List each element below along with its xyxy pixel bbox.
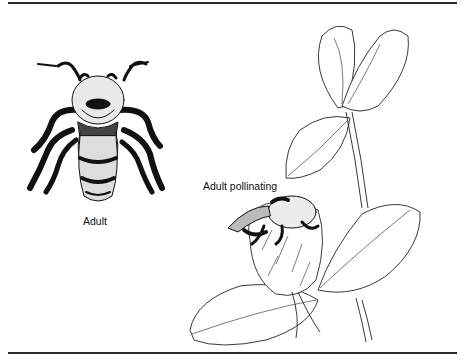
adult-pollinating-label: Adult pollinating — [203, 180, 277, 192]
adult-bee-icon — [30, 62, 162, 201]
adult-label: Adult — [83, 215, 107, 227]
